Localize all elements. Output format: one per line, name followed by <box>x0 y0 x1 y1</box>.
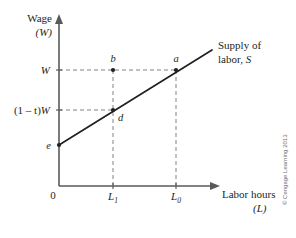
y-axis-label-line1: Wage <box>27 12 52 24</box>
x-axis-arrow-icon <box>210 182 220 190</box>
x-tick-L0-base: L <box>170 190 177 202</box>
copyright-credit: © Cengage Learning 2013 <box>282 134 288 205</box>
y-tick-label-wage-gross: W <box>41 64 51 76</box>
x-axis-label-line2: (L) <box>253 202 267 215</box>
point-e-label: e <box>46 140 51 151</box>
point-e-marker <box>57 143 61 147</box>
point-b-label: b <box>110 53 115 64</box>
curve-label-prefix: labor, <box>218 53 246 65</box>
labor-supply-diagram: Wage (W) Labor hours (L) 0 W (1 – t)W L1… <box>0 0 296 238</box>
x-tick-label-L0: L0 <box>170 190 181 205</box>
point-d-marker <box>111 108 115 112</box>
point-a-label: a <box>173 53 178 64</box>
curve-label-line1: Supply of <box>218 39 261 51</box>
curve-label-symbol: S <box>246 53 252 65</box>
labor-supply-figure: Wage (W) Labor hours (L) 0 W (1 – t)W L1… <box>0 0 296 238</box>
y-axis-arrow-icon <box>55 14 63 24</box>
y-axis-label-line2: (W) <box>36 26 53 39</box>
wage-net-symbol: W <box>41 104 51 116</box>
wage-net-prefix: (1 – t) <box>14 104 41 117</box>
y-tick-label-wage-net: (1 – t)W <box>14 104 51 117</box>
point-b-marker <box>111 68 115 72</box>
x-axis-label-line1: Labor hours <box>222 188 275 200</box>
supply-of-labor-curve <box>59 50 212 145</box>
x-tick-label-L1: L1 <box>107 190 118 205</box>
origin-label: 0 <box>50 189 56 201</box>
point-d-label: d <box>118 112 124 123</box>
x-tick-L0-sub: 0 <box>177 196 181 205</box>
curve-label-line2: labor, S <box>218 53 252 65</box>
point-a-marker <box>174 68 178 72</box>
x-tick-L1-sub: 1 <box>114 196 118 205</box>
x-tick-L1-base: L <box>107 190 114 202</box>
